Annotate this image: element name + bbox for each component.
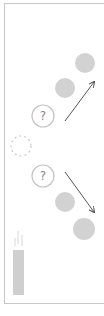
filled-circle (75, 53, 95, 73)
filled-circle (55, 192, 75, 212)
candle-icon (13, 231, 24, 295)
diagram-canvas: ? ? (0, 0, 104, 316)
unknown-node: ? (32, 165, 54, 187)
dotted-circle-placeholder (11, 136, 31, 156)
question-mark-label: ? (40, 169, 46, 183)
question-mark-label: ? (40, 109, 46, 123)
filled-circle (55, 78, 75, 98)
filled-circle (73, 218, 95, 240)
unknown-node: ? (32, 105, 54, 127)
